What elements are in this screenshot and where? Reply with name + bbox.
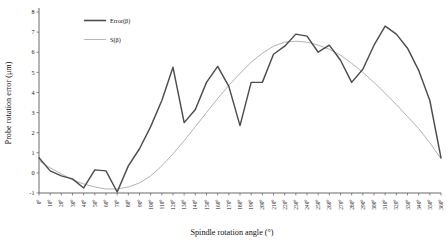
x-tick-label: 130°: [181, 200, 187, 210]
x-tick-label: 340°: [416, 200, 422, 210]
x-tick-label: 0°: [36, 200, 42, 205]
y-tick-group: -1012345678: [29, 8, 39, 196]
x-tick-label: 90°: [137, 200, 143, 208]
line-chart: -1012345678 0°10°20°30°40°50°60°70°80°90…: [0, 0, 447, 243]
x-tick-label: 300°: [371, 200, 377, 210]
series-line-error-beta: [39, 26, 441, 192]
y-tick-label: 4: [31, 89, 34, 96]
x-tick-label: 320°: [393, 200, 399, 210]
x-tick-label: 170°: [226, 200, 232, 210]
x-tick-label: 40°: [81, 200, 87, 208]
y-tick-label: 0: [31, 169, 34, 176]
legend-label-error-beta: Error(β): [110, 17, 130, 25]
x-tick-label: 160°: [215, 200, 221, 210]
x-tick-label: 50°: [92, 200, 98, 208]
y-tick-label: 3: [31, 109, 34, 116]
x-tick-label: 140°: [192, 200, 198, 210]
y-tick-label: 1: [31, 149, 34, 156]
y-axis-title: Probe rotation error (μm): [4, 61, 13, 144]
x-tick-label: 200°: [259, 200, 265, 210]
y-tick-label: 7: [31, 28, 34, 35]
x-tick-label: 100°: [148, 200, 154, 210]
x-axis: 0°10°20°30°40°50°60°70°80°90°100°110°120…: [36, 193, 444, 210]
x-tick-label: 260°: [326, 200, 332, 210]
x-tick-group: 0°10°20°30°40°50°60°70°80°90°100°110°120…: [36, 193, 444, 210]
plot-series-group: [39, 26, 441, 192]
x-tick-label: 230°: [293, 200, 299, 210]
x-tick-label: 30°: [70, 200, 76, 208]
x-tick-label: 120°: [170, 200, 176, 210]
x-tick-label: 310°: [382, 200, 388, 210]
x-tick-label: 350°: [427, 200, 433, 210]
x-tick-label: 110°: [159, 200, 165, 210]
y-axis: -1012345678: [29, 8, 39, 196]
x-tick-label: 240°: [304, 200, 310, 210]
x-tick-label: 60°: [103, 200, 109, 208]
x-tick-label: 180°: [237, 200, 243, 210]
x-tick-label: 220°: [282, 200, 288, 210]
chart-figure: -1012345678 0°10°20°30°40°50°60°70°80°90…: [0, 0, 447, 243]
legend: Error(β) S(β): [84, 17, 130, 44]
x-tick-label: 360°: [438, 200, 444, 210]
x-tick-label: 330°: [405, 200, 411, 210]
y-tick-label: 6: [31, 48, 34, 55]
x-tick-label: 210°: [271, 200, 277, 210]
y-tick-label: -1: [29, 189, 34, 196]
x-tick-label: 150°: [204, 200, 210, 210]
x-axis-title: Spindle rotation angle (°): [190, 228, 273, 237]
x-tick-label: 190°: [248, 200, 254, 210]
series-line-s-beta: [39, 41, 441, 189]
legend-label-s-beta: S(β): [110, 36, 121, 44]
x-tick-label: 10°: [47, 200, 53, 208]
x-tick-label: 20°: [58, 200, 64, 208]
x-tick-label: 80°: [125, 200, 131, 208]
y-tick-label: 5: [31, 69, 34, 76]
x-tick-label: 70°: [114, 200, 120, 208]
y-tick-label: 2: [31, 129, 34, 136]
x-tick-label: 270°: [338, 200, 344, 210]
x-tick-label: 250°: [315, 200, 321, 210]
x-tick-label: 280°: [349, 200, 355, 210]
x-tick-label: 290°: [360, 200, 366, 210]
y-tick-label: 8: [31, 8, 34, 15]
